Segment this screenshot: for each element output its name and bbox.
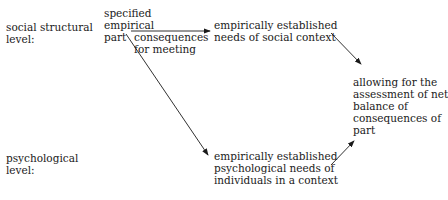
arrow-part-to-psych-needs: [126, 34, 208, 155]
arrow-social-needs-to-assessment: [331, 33, 361, 64]
arrow-psych-needs-to-assessment: [331, 141, 354, 165]
